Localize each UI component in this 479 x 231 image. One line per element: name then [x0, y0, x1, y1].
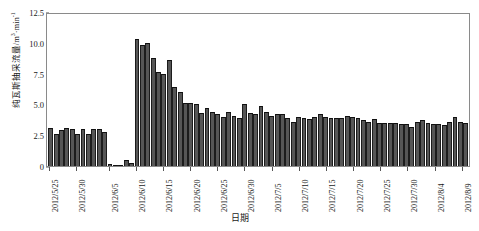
bar [232, 116, 237, 167]
bar [388, 123, 393, 166]
bar [264, 112, 269, 166]
bar [377, 123, 382, 166]
bar [426, 123, 431, 166]
bar [210, 112, 215, 166]
bar [215, 114, 220, 166]
x-axis-tick-label: 2012/5/30 [79, 180, 87, 212]
y-axis-tick-label: 7.5 [33, 70, 44, 79]
bar [409, 127, 414, 166]
bar [194, 104, 199, 166]
plot-area [46, 13, 470, 167]
bar [75, 134, 80, 166]
x-axis-tick-label: 2012/7/5 [275, 184, 283, 212]
bar [345, 116, 350, 167]
bar [323, 117, 328, 166]
bar [404, 124, 409, 166]
x-axis-tick-label: 2012/7/25 [384, 180, 392, 212]
bar [156, 72, 161, 166]
bar [64, 128, 69, 166]
bar [420, 120, 425, 166]
bar [226, 112, 231, 166]
bar [172, 87, 177, 166]
bar [415, 122, 420, 166]
bar [436, 124, 441, 166]
bar [463, 123, 468, 166]
bar [458, 122, 463, 166]
x-axis-tick-label: 2012/8/4 [438, 184, 446, 212]
x-axis-tick-label: 2012/6/10 [139, 180, 147, 212]
y-axis-tick-label: 2.5 [33, 132, 44, 141]
bar [48, 128, 53, 166]
bar [334, 118, 339, 166]
bar [302, 118, 307, 166]
bar [242, 104, 247, 166]
gas-extraction-flow-bar-chart: 纯瓦斯抽采流量/m3·min-1 02.55.07.510.012.5 2012… [0, 0, 479, 231]
bar [356, 118, 361, 166]
bar [221, 117, 226, 166]
x-axis-tick-label: 2012/6/20 [194, 180, 202, 212]
x-axis-tick-label: 2012/7/10 [302, 180, 310, 212]
bar [97, 129, 102, 166]
bar [431, 124, 436, 166]
bar [442, 125, 447, 166]
bar [86, 134, 91, 166]
bar [399, 124, 404, 166]
x-axis-tick-label: 2012/6/15 [166, 180, 174, 212]
bar [205, 108, 210, 166]
bar [129, 163, 134, 166]
bar [188, 103, 193, 166]
bar [124, 160, 129, 166]
bar [81, 129, 86, 166]
bar [113, 165, 118, 166]
bar-series [47, 14, 469, 166]
bar [140, 45, 145, 166]
bar [253, 114, 258, 166]
x-axis-title: 日期 [0, 214, 479, 223]
bar [145, 43, 150, 166]
bar [248, 113, 253, 166]
bar [70, 129, 75, 166]
bar [108, 164, 113, 166]
bar [447, 122, 452, 166]
x-axis-tick-label: 2012/6/25 [221, 180, 229, 212]
bar [285, 118, 290, 166]
bar [382, 123, 387, 166]
bar [291, 122, 296, 166]
x-axis-tick-labels: 2012/5/252012/5/302012/6/52012/6/102012/… [0, 168, 479, 218]
bar [339, 118, 344, 166]
bar [59, 130, 64, 166]
x-axis-tick-label: 2012/8/9 [465, 184, 473, 212]
bar [312, 117, 317, 166]
bar [453, 117, 458, 166]
bar [366, 122, 371, 166]
bar [178, 92, 183, 166]
bar [280, 114, 285, 166]
x-axis-tick-label: 2012/7/30 [411, 180, 419, 212]
bar [350, 117, 355, 166]
bar [275, 114, 280, 166]
bar [161, 74, 166, 166]
y-axis-tick-label: 12.5 [29, 9, 44, 18]
y-axis-tick-label: 5.0 [33, 101, 44, 110]
x-axis-tick-label: 2012/6/30 [248, 180, 256, 212]
bar [167, 60, 172, 166]
bar [237, 118, 242, 166]
x-axis-tick-label: 2012/7/15 [329, 180, 337, 212]
bar [307, 119, 312, 166]
bar [393, 123, 398, 166]
bar [54, 134, 59, 166]
bar [91, 129, 96, 166]
x-axis-tick-label: 2012/7/20 [357, 180, 365, 212]
x-axis-tick-label: 2012/6/5 [112, 184, 120, 212]
bar [151, 58, 156, 166]
x-axis-tick-label: 2012/5/25 [52, 180, 60, 212]
bar [135, 39, 140, 166]
bar [329, 118, 334, 166]
bar [102, 132, 107, 166]
y-axis-tick-label: 10.0 [29, 40, 44, 49]
bar [199, 113, 204, 166]
bar [118, 165, 123, 166]
bar [372, 119, 377, 166]
bar [269, 116, 274, 167]
bar [361, 120, 366, 166]
